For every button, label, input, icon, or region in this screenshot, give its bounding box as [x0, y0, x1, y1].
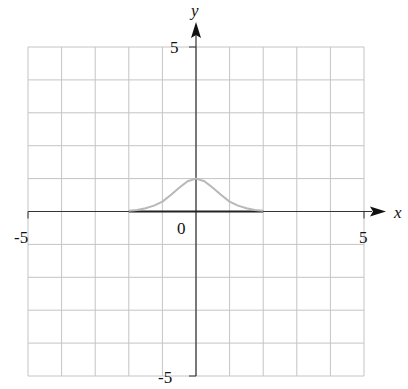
- coordinate-plane: [0, 0, 408, 389]
- y-max-label: 5: [170, 39, 179, 56]
- x-min-label: -5: [14, 229, 28, 246]
- y-min-label: -5: [158, 369, 172, 386]
- y-axis-label: y: [191, 2, 199, 19]
- origin-label: 0: [177, 220, 186, 237]
- x-axis-label: x: [394, 204, 402, 221]
- axes: [28, 22, 386, 376]
- x-max-label: 5: [359, 229, 368, 246]
